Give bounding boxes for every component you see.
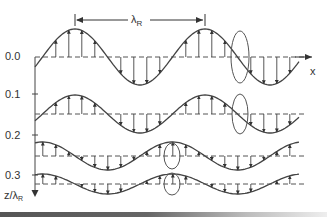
depth-axis-label: z/λR bbox=[4, 189, 23, 202]
depth-tick-0: 0.0 bbox=[5, 50, 20, 62]
wave-row-1 bbox=[35, 94, 304, 134]
bottom-divider-bar bbox=[0, 212, 327, 217]
rayleigh-wave-diagram: λR 0.0 0.1 0.2 0.3 z/λR x bbox=[0, 0, 327, 217]
wave-row-0 bbox=[35, 29, 312, 85]
x-axis-label: x bbox=[310, 65, 316, 77]
wavelength-marker: λR bbox=[75, 13, 205, 28]
wave-rows bbox=[35, 29, 312, 195]
wave-row-3 bbox=[35, 173, 304, 195]
depth-tick-3: 0.3 bbox=[5, 169, 20, 181]
wave-row-2 bbox=[35, 142, 304, 170]
depth-axis: 0.0 0.1 0.2 0.3 z/λR bbox=[4, 50, 39, 202]
depth-tick-2: 0.2 bbox=[5, 129, 20, 141]
depth-tick-1: 0.1 bbox=[5, 88, 20, 100]
wavelength-label: λR bbox=[131, 13, 143, 28]
